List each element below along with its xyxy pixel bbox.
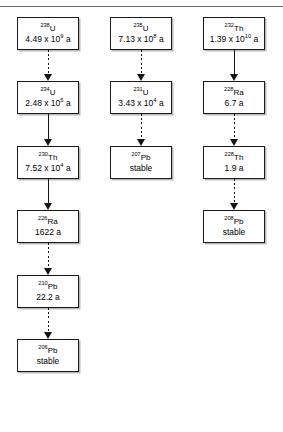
mass-number: 234	[40, 86, 49, 92]
nuclide-box: 232Th1.39 x 1010 a	[203, 17, 265, 50]
nuclide-box: 226Ra1622 a	[17, 210, 79, 243]
nuclide-box: 231U3.43 x 104 a	[110, 81, 172, 114]
arrow-shaft	[141, 114, 142, 140]
arrow-head-icon	[44, 74, 52, 81]
decay-arrow-solid	[230, 50, 239, 81]
arrow-head-icon	[230, 203, 238, 210]
decay-arrow-dashed	[137, 114, 146, 146]
nuclide-box: 206Pbstable	[17, 339, 79, 372]
nuclide-box: 207Pbstable	[110, 146, 172, 179]
nuclide-symbol: 206Pb	[38, 345, 57, 356]
exponent: 10	[245, 33, 251, 39]
exponent: 4	[60, 162, 63, 168]
half-life-label: 4.49 x 109 a	[25, 34, 70, 45]
arrow-shaft	[141, 50, 142, 75]
mass-number: 210	[38, 280, 47, 286]
mass-number: 235	[133, 22, 142, 28]
nuclide-symbol: 228Ra	[224, 87, 244, 98]
nuclide-box: 234U2.48 x 105 a	[17, 81, 79, 114]
mass-number: 231	[133, 86, 142, 92]
nuclide-symbol: 208Pb	[224, 216, 243, 227]
nuclide-symbol: 231U	[133, 87, 148, 98]
nuclide-symbol: 230Th	[39, 152, 58, 163]
arrow-head-icon	[230, 139, 238, 146]
nuclide-box: 208Pbstable	[203, 210, 265, 243]
nuclide-symbol: 226Ra	[38, 216, 58, 227]
half-life-label: 1.39 x 1010 a	[210, 34, 259, 45]
arrow-head-icon	[137, 74, 145, 81]
half-life-label: 7.13 x 108 a	[118, 34, 163, 45]
nuclide-box: 228Ra6.7 a	[203, 81, 265, 114]
half-life-label: 2.48 x 105 a	[25, 98, 70, 109]
arrow-head-icon	[44, 332, 52, 339]
exponent: 5	[60, 97, 63, 103]
mass-number: 230	[39, 151, 48, 157]
nuclide-box: 210Pb22.2 a	[17, 275, 79, 308]
half-life-label: 1622 a	[35, 227, 61, 238]
decay-arrow-dashed	[230, 114, 239, 146]
mass-number: 206	[38, 344, 47, 350]
nuclide-symbol: 234U	[40, 87, 55, 98]
mass-number: 232	[225, 22, 234, 28]
arrow-head-icon	[137, 139, 145, 146]
arrow-head-icon	[44, 139, 52, 146]
decay-arrow-dashed	[137, 50, 146, 81]
mass-number: 226	[38, 215, 47, 221]
decay-arrow-dashed	[44, 50, 53, 81]
half-life-label: 1.9 a	[225, 163, 244, 174]
mass-number: 207	[131, 151, 140, 157]
half-life-label: 7.52 x 104 a	[25, 163, 70, 174]
exponent: 8	[153, 33, 156, 39]
nuclide-symbol: 207Pb	[131, 152, 150, 163]
mass-number: 228	[224, 86, 233, 92]
arrow-head-icon	[44, 203, 52, 210]
header-rule	[0, 6, 283, 7]
mass-number: 228	[225, 151, 234, 157]
arrow-shaft	[48, 50, 49, 75]
nuclide-box: 235U7.13 x 108 a	[110, 17, 172, 50]
nuclide-symbol: 210Pb	[38, 281, 57, 292]
arrow-shaft	[234, 50, 235, 75]
nuclide-box: 238U4.49 x 109 a	[17, 17, 79, 50]
stability-label: stable	[37, 356, 60, 367]
exponent: 4	[153, 97, 156, 103]
arrow-shaft	[48, 308, 49, 333]
nuclide-box: 230Th7.52 x 104 a	[17, 146, 79, 179]
decay-arrow-solid	[44, 114, 53, 146]
stability-label: stable	[223, 227, 246, 238]
half-life-label: 22.2 a	[36, 292, 60, 303]
decay-chain-diagram: 238U4.49 x 109 a234U2.48 x 105 a230Th7.5…	[0, 0, 283, 432]
arrow-shaft	[234, 114, 235, 140]
stability-label: stable	[130, 163, 153, 174]
mass-number: 208	[224, 215, 233, 221]
nuclide-symbol: 232Th	[225, 23, 244, 34]
decay-arrow-dashed	[44, 243, 53, 275]
half-life-label: 3.43 x 104 a	[118, 98, 163, 109]
arrow-shaft	[234, 179, 235, 204]
decay-arrow-dashed	[230, 179, 239, 210]
nuclide-symbol: 238U	[40, 23, 55, 34]
exponent: 9	[60, 33, 63, 39]
mass-number: 238	[40, 22, 49, 28]
decay-arrow-dashed	[44, 308, 53, 339]
decay-arrow-solid	[44, 179, 53, 210]
arrow-head-icon	[44, 268, 52, 275]
arrow-shaft	[48, 243, 49, 269]
arrow-shaft	[48, 114, 49, 140]
nuclide-symbol: 235U	[133, 23, 148, 34]
arrow-shaft	[48, 179, 49, 204]
nuclide-box: 228Th1.9 a	[203, 146, 265, 179]
arrow-head-icon	[230, 74, 238, 81]
nuclide-symbol: 228Th	[225, 152, 244, 163]
half-life-label: 6.7 a	[225, 98, 244, 109]
